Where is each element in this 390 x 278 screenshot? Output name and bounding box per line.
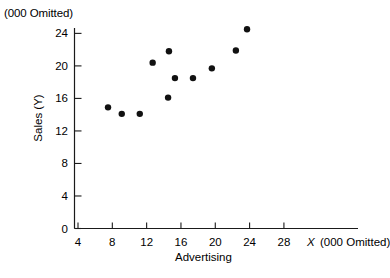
x-tick-label: 20: [209, 236, 222, 248]
x-tick-group: [78, 223, 284, 229]
y-tick-label-group: 04812162024: [55, 27, 68, 234]
data-point: [172, 75, 178, 81]
x-tick-label: 8: [109, 236, 115, 248]
scatter-plot-figure: (000 Omitted) 04812162024 Sales (Y) 4812…: [0, 0, 390, 278]
data-point: [166, 48, 172, 54]
x-tick-label: 4: [75, 236, 82, 248]
y-tick-label: 0: [62, 223, 68, 235]
x-tick-label: 12: [140, 236, 153, 248]
y-axis: 04812162024 Sales (Y): [32, 27, 82, 234]
data-point-layer: [105, 26, 250, 117]
y-tick-label: 8: [62, 157, 68, 169]
x-axis-units-note: (000 Omitted): [320, 236, 390, 248]
data-point: [137, 111, 143, 117]
data-point: [165, 94, 171, 100]
data-point: [190, 75, 196, 81]
x-tick-label: 28: [278, 236, 291, 248]
data-point: [105, 104, 111, 110]
y-tick-label: 24: [55, 27, 68, 39]
x-axis: 481216202428 X (000 Omitted) Advertising: [75, 223, 390, 264]
y-tick-label: 20: [55, 60, 68, 72]
y-tick-label: 12: [55, 125, 68, 137]
y-tick-label: 4: [62, 190, 69, 202]
x-axis-title: Advertising: [175, 251, 232, 263]
data-point: [149, 59, 155, 65]
data-point: [209, 65, 215, 71]
x-tick-label: 16: [175, 236, 188, 248]
x-tick-label-group: 481216202428: [75, 236, 291, 248]
y-tick-group: [75, 33, 82, 228]
data-point: [119, 111, 125, 117]
x-axis-symbol: X: [306, 236, 316, 248]
y-axis-title: Sales (Y): [32, 94, 44, 141]
data-point: [244, 26, 250, 32]
x-tick-label: 24: [243, 236, 256, 248]
data-point: [233, 47, 239, 53]
plot-canvas: 04812162024 Sales (Y) 481216202428 X (00…: [0, 0, 390, 278]
y-tick-label: 16: [55, 92, 68, 104]
